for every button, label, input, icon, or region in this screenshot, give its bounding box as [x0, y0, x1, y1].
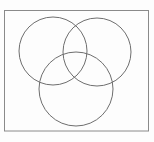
figure-background: [0, 0, 154, 142]
venn-diagram-canvas: [0, 0, 154, 142]
venn-diagram-figure: [0, 0, 154, 142]
